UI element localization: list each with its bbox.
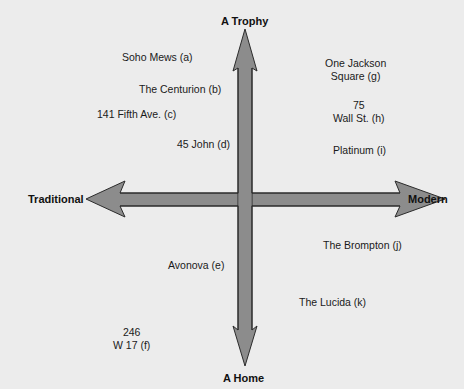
map-item-c: 141 Fifth Ave. (c) — [97, 108, 176, 121]
item-label-line-2: Wall St. (h) — [333, 112, 385, 125]
map-item-i: Platinum (i) — [333, 144, 386, 157]
map-item-d: 45 John (d) — [177, 138, 230, 151]
item-label: The Centurion (b) — [139, 83, 221, 96]
item-label: The Brompton (j) — [323, 239, 402, 252]
item-label-line-1: 246 — [113, 326, 150, 339]
item-label-line-1: One Jackson — [325, 57, 386, 70]
map-item-g: One Jackson Square (g) — [325, 57, 386, 83]
map-item-b: The Centurion (b) — [139, 83, 221, 96]
map-item-k: The Lucida (k) — [299, 296, 366, 309]
map-item-a: Soho Mews (a) — [122, 51, 193, 64]
map-item-h: 75 Wall St. (h) — [333, 99, 385, 125]
item-label-line-2: W 17 (f) — [113, 339, 150, 352]
axis-label-left: Traditional — [28, 193, 84, 205]
item-label: Soho Mews (a) — [122, 51, 193, 64]
item-label: 45 John (d) — [177, 138, 230, 151]
item-label: 141 Fifth Ave. (c) — [97, 108, 176, 121]
item-label: The Lucida (k) — [299, 296, 366, 309]
item-label-line-2: Square (g) — [325, 70, 386, 83]
map-item-f: 246 W 17 (f) — [113, 326, 150, 352]
horizontal-axis-arrow — [86, 181, 445, 217]
item-label: Platinum (i) — [333, 144, 386, 157]
axis-label-top: A Trophy — [221, 15, 268, 27]
axis-label-right: Modern — [408, 193, 448, 205]
item-label: Avonova (e) — [168, 259, 224, 272]
map-item-j: The Brompton (j) — [323, 239, 402, 252]
axis-label-bottom: A Home — [223, 372, 264, 384]
map-item-e: Avonova (e) — [168, 259, 224, 272]
positioning-map: A Trophy A Home Traditional Modern Soho … — [0, 0, 464, 389]
item-label-line-1: 75 — [333, 99, 385, 112]
